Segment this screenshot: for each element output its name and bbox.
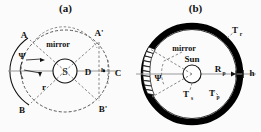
label-a: A: [21, 30, 28, 40]
mirror-leader-line-b: [162, 52, 182, 62]
figure-root: (a) S: [0, 0, 261, 132]
label-temp-r: T r: [232, 25, 243, 37]
label-sun: Sun: [184, 54, 199, 64]
label-tp-base: T: [209, 88, 215, 98]
label-radius-r: r: [42, 82, 46, 92]
radius-line-to-b-prime: [65, 71, 98, 101]
panel-b-drawing: mirror Sun Ψ R p h T r T s: [130, 0, 261, 132]
label-temp-s: T s: [183, 89, 193, 101]
label-psi-a: Ψ: [18, 51, 25, 61]
label-tr-subscript: r: [240, 31, 243, 37]
label-temp-p: T p: [209, 88, 220, 100]
label-ts-subscript: s: [191, 95, 193, 101]
label-psi-b: Ψ: [154, 73, 161, 83]
label-b-prime: B': [99, 104, 108, 114]
label-tr-base: T: [232, 25, 238, 35]
label-collector-c: C: [115, 68, 122, 78]
label-b: B: [19, 105, 25, 115]
label-height-h-a: h: [101, 66, 105, 74]
radius-line-to-a-prime: [65, 42, 98, 71]
panel-a: (a) S: [0, 0, 131, 132]
label-thickness-h-b: h: [249, 68, 254, 78]
panel-b: (b): [130, 0, 261, 132]
ts-leader-line: [190, 83, 192, 90]
label-a-prime: A': [95, 28, 104, 38]
label-mirror-b: mirror: [172, 44, 196, 53]
label-rp-base: R: [215, 64, 222, 74]
label-rp-subscript: p: [222, 70, 225, 76]
rp-arrowhead: [231, 72, 236, 77]
label-mirror-a: mirror: [46, 40, 70, 49]
label-tp-subscript: p: [216, 94, 219, 100]
label-distance-d: D: [85, 67, 92, 77]
psi-arrow-upper: [40, 58, 45, 62]
label-ts-base: T: [183, 89, 189, 99]
psi-leader-upper: [26, 59, 41, 60]
panel-a-drawing: S A A' B B' mirror: [0, 0, 131, 132]
